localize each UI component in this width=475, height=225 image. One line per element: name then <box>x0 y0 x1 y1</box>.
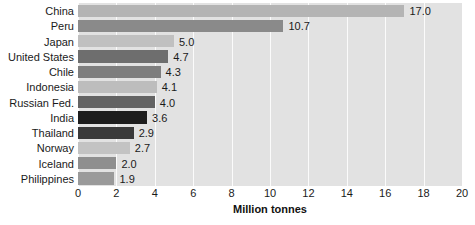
x-axis-title: Million tonnes <box>78 203 462 216</box>
x-tick-16: 16 <box>379 187 391 200</box>
value-label: 4.3 <box>166 66 181 78</box>
value-label: 5.0 <box>179 36 194 48</box>
value-label: 4.0 <box>160 97 175 109</box>
category-label-united-states: United States <box>0 51 74 63</box>
bar-japan <box>78 35 174 47</box>
value-label: 4.1 <box>162 81 177 93</box>
bar-indonesia <box>78 81 157 93</box>
category-label-russian-fed: Russian Fed. <box>0 97 74 109</box>
bar-philippines <box>78 172 114 184</box>
bar-row <box>78 110 462 125</box>
category-label-peru: Peru <box>0 20 74 32</box>
bar-united-states <box>78 50 168 62</box>
bar-iceland <box>78 157 116 169</box>
bar-norway <box>78 142 130 154</box>
x-tick-14: 14 <box>341 187 353 200</box>
bar-russian-fed <box>78 96 155 108</box>
x-tick-8: 8 <box>229 187 235 200</box>
value-label: 4.7 <box>173 51 188 63</box>
value-label: 10.7 <box>288 20 309 32</box>
value-label: 3.6 <box>152 112 167 124</box>
x-tick-6: 6 <box>190 187 196 200</box>
category-label-china: China <box>0 5 74 17</box>
bar-row <box>78 34 462 49</box>
bar-peru <box>78 20 283 32</box>
value-label: 1.9 <box>119 173 134 185</box>
x-tick-12: 12 <box>302 187 314 200</box>
category-label-thailand: Thailand <box>0 127 74 139</box>
category-label-chile: Chile <box>0 66 74 78</box>
x-tick-2: 2 <box>113 187 119 200</box>
bar-row <box>78 171 462 186</box>
value-label: 2.7 <box>135 142 150 154</box>
bar-thailand <box>78 127 134 139</box>
x-tick-0: 0 <box>75 187 81 200</box>
value-label: 2.9 <box>139 127 154 139</box>
category-label-indonesia: Indonesia <box>0 81 74 93</box>
value-label: 17.0 <box>409 5 430 17</box>
value-label: 2.0 <box>121 158 136 170</box>
category-label-india: India <box>0 112 74 124</box>
bar-row <box>78 3 462 18</box>
category-label-philippines: Philippines <box>0 173 74 185</box>
x-tick-20: 20 <box>456 187 468 200</box>
x-tick-10: 10 <box>264 187 276 200</box>
x-axis-ticks: 02468101214161820 <box>78 187 462 203</box>
bar-row <box>78 64 462 79</box>
bar-row <box>78 79 462 94</box>
x-tick-4: 4 <box>152 187 158 200</box>
bar-india <box>78 111 147 123</box>
bar-row <box>78 95 462 110</box>
bar-chart: ChinaPeruJapanUnited StatesChileIndonesi… <box>0 0 475 225</box>
bar-row <box>78 49 462 64</box>
bar-chile <box>78 66 161 78</box>
x-tick-18: 18 <box>417 187 429 200</box>
bar-row <box>78 18 462 33</box>
bar-row <box>78 125 462 140</box>
category-label-japan: Japan <box>0 36 74 48</box>
bar-china <box>78 5 404 17</box>
category-label-iceland: Iceland <box>0 158 74 170</box>
category-label-norway: Norway <box>0 142 74 154</box>
category-axis-labels: ChinaPeruJapanUnited StatesChileIndonesi… <box>0 3 74 186</box>
